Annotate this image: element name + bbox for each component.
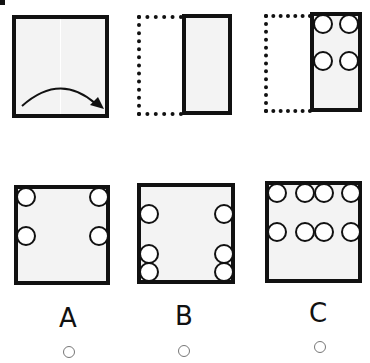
hole <box>341 183 361 203</box>
hole <box>339 14 359 34</box>
hole <box>267 183 287 203</box>
hole <box>139 244 159 264</box>
step-2-folded-paper <box>182 14 232 115</box>
step-3-ghost-half <box>264 14 312 113</box>
hole <box>139 204 159 224</box>
hole <box>16 226 36 246</box>
option-a-radio[interactable] <box>63 346 75 358</box>
hole <box>341 222 361 242</box>
option-b-radio[interactable] <box>178 345 190 357</box>
option-c-label: C <box>298 298 338 328</box>
hole <box>314 222 334 242</box>
corner-mark <box>0 0 5 5</box>
hole <box>214 244 234 264</box>
hole <box>295 183 315 203</box>
curved-arrow-icon <box>20 80 106 110</box>
hole <box>313 51 333 71</box>
hole <box>295 222 315 242</box>
hole <box>313 14 333 34</box>
hole <box>139 262 159 282</box>
option-a-label: A <box>48 303 88 333</box>
hole <box>89 226 109 246</box>
option-b-label: B <box>164 301 204 331</box>
hole <box>16 187 36 207</box>
hole <box>214 204 234 224</box>
hole <box>339 51 359 71</box>
hole <box>267 222 287 242</box>
hole <box>314 183 334 203</box>
step-2-ghost-half <box>137 15 183 116</box>
hole <box>214 262 234 282</box>
hole <box>89 187 109 207</box>
option-c-radio[interactable] <box>314 341 326 353</box>
